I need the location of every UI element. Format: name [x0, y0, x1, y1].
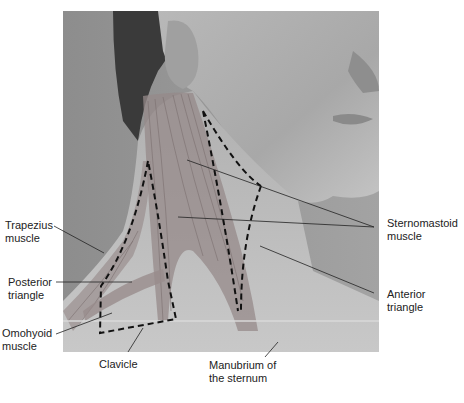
- photo-illustration: [63, 11, 379, 352]
- label-clavicle: Clavicle: [99, 358, 138, 371]
- label-omohyoid-muscle: Omohyoid muscle: [2, 327, 52, 353]
- label-posterior-triangle: Posterior triangle: [8, 276, 52, 302]
- label-sternomastoid-muscle: Sternomastoid muscle: [387, 217, 458, 243]
- label-trapezius-muscle: Trapezius muscle: [5, 219, 53, 245]
- label-manubrium-of-sternum: Manubrium of the sternum: [209, 359, 276, 385]
- neck-anatomy-photo: [63, 11, 379, 352]
- label-anterior-triangle: Anterior triangle: [387, 288, 426, 314]
